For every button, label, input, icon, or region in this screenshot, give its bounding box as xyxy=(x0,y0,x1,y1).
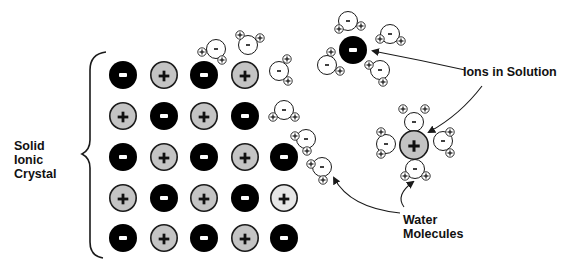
arrow-to-cation-water-icon xyxy=(401,182,413,207)
crystal-label: Solid Ionic Crystal xyxy=(14,139,56,181)
water-molecule-icon xyxy=(434,128,455,157)
cation-icon xyxy=(232,225,258,251)
cation-icon xyxy=(151,62,177,88)
anion-icon xyxy=(109,143,137,171)
anion-icon xyxy=(150,184,178,212)
cation-icon xyxy=(110,103,136,129)
water-molecule-icon xyxy=(236,31,264,55)
cation-icon xyxy=(271,185,297,211)
ions-in-solution-text: Ions in Solution xyxy=(463,65,557,79)
water-molecule-icon xyxy=(376,25,405,46)
ions-in-solution-label: Ions in Solution xyxy=(463,65,557,79)
anion-icon xyxy=(190,224,218,252)
crystal-lattice xyxy=(109,61,298,252)
water-label-line-1: Water xyxy=(403,213,463,227)
cation-icon xyxy=(191,103,217,129)
cation-icon xyxy=(232,144,258,170)
arrow-to-edge-water-icon xyxy=(334,178,400,213)
anion-icon xyxy=(150,102,178,130)
ionic-dissolution-diagram: Solid Ionic Crystal Ions in Solution Wat… xyxy=(0,0,569,267)
anion-icon xyxy=(270,143,298,171)
water-molecule-icon xyxy=(307,158,332,185)
anion-icon xyxy=(190,61,218,89)
water-molecule-icon xyxy=(401,160,430,181)
crystal-brace xyxy=(82,52,106,258)
cation-icon xyxy=(191,185,217,211)
water-molecule-icon xyxy=(365,61,390,87)
water-label-line-2: Molecules xyxy=(403,227,463,241)
anion-icon xyxy=(231,102,259,130)
water-molecule-icon xyxy=(270,55,293,85)
anion-icon xyxy=(190,143,218,171)
solvated-anion-icon xyxy=(339,36,367,64)
anion-icon xyxy=(270,224,298,252)
crystal-label-line-3: Crystal xyxy=(14,167,56,181)
cation-icon xyxy=(151,144,177,170)
diagram-canvas xyxy=(0,0,569,267)
anion-icon xyxy=(231,184,259,212)
water-molecule-icon xyxy=(335,12,365,34)
anion-icon xyxy=(109,61,137,89)
crystal-label-line-2: Ionic xyxy=(14,153,56,167)
water-molecule-icon xyxy=(377,128,396,158)
solvated-cation-icon xyxy=(400,131,428,159)
cation-icon xyxy=(232,62,258,88)
water-molecule-icon xyxy=(399,105,429,132)
arrow-to-cation-icon xyxy=(429,86,482,132)
water-molecule-icon xyxy=(198,40,226,65)
crystal-label-line-1: Solid xyxy=(14,139,56,153)
cation-icon xyxy=(110,185,136,211)
water-molecule-icon xyxy=(269,101,299,122)
water-molecules-label: Water Molecules xyxy=(403,213,463,241)
anion-icon xyxy=(109,224,137,252)
cation-icon xyxy=(151,225,177,251)
